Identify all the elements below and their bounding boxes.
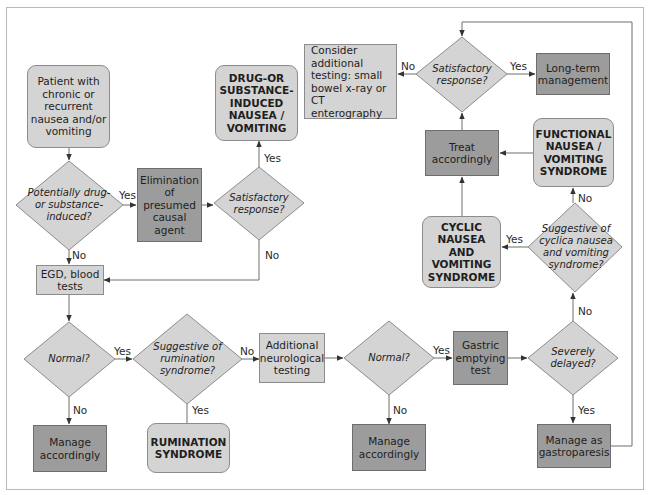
decision-normal-2-text: Normal? [368,352,410,364]
edge-label-cyclic-no: No [578,192,592,204]
decision-satisfactory-1: Satisfactory response? [224,190,294,218]
functional-diagnosis: FUNCTIONAL NAUSEA / VOMITING SYNDROME [533,118,614,187]
neuro-testing-node: Additional neurological testing [259,333,325,383]
manage-accordingly-2: Manage accordingly [352,424,426,471]
decision-severely-delayed-text: Severely delayed? [543,346,603,370]
rumination-diagnosis-text: RUMINATION SYNDROME [150,436,227,461]
egd-node-text: EGD, blood tests [39,268,101,293]
decision-cyclic: Suggestive of cyclica nausea and vomitin… [538,222,614,272]
edge-label-delayed-no: No [578,305,592,317]
edge-label-normal2-yes: Yes [433,344,450,356]
drug-induced-diagnosis: DRUG-OR SUBSTANCE-INDUCED NAUSEA / VOMIT… [215,65,298,141]
edge-label-normal1-yes: Yes [114,345,131,357]
start-node-text: Patient with chronic or recurrent nausea… [30,75,107,138]
edge-label-normal2-no: No [393,404,407,416]
manage-accordingly-2-text: Manage accordingly [355,435,423,460]
decision-drug-induced: Potentially drug-or substance-induced? [26,181,112,229]
elimination-node: Elimination of presumed causal agent [137,168,202,242]
treat-accordingly-node-text: Treat accordingly [428,141,496,166]
cyclic-diagnosis: CYCLIC NAUSEA AND VOMITING SYNDROME [422,216,501,288]
decision-normal-1-text: Normal? [48,353,90,365]
manage-accordingly-1-text: Manage accordingly [36,436,104,461]
edge-label-delayed-yes: Yes [578,404,595,416]
rumination-diagnosis: RUMINATION SYNDROME [147,423,230,473]
gastric-emptying-node-text: Gastric emptying test [456,339,506,377]
edge-label-cyclic-yes: Yes [506,233,523,245]
decision-severely-delayed: Severely delayed? [543,345,603,371]
decision-satisfactory-2-text: Satisfactory response? [427,63,497,87]
decision-satisfactory-2: Satisfactory response? [427,61,497,89]
long-term-node-text: Long-term management [538,62,608,87]
edge-label-drug-no: No [72,249,86,261]
drug-induced-diagnosis-text: DRUG-OR SUBSTANCE-INDUCED NAUSEA / VOMIT… [218,72,295,135]
manage-accordingly-1: Manage accordingly [33,425,107,472]
start-node: Patient with chronic or recurrent nausea… [27,65,110,148]
edge-label-normal1-no: No [73,404,87,416]
gastroparesis-node-text: Manage as gastroparesis [539,434,610,459]
edge-label-rumination-yes: Yes [192,404,209,416]
egd-node: EGD, blood tests [36,265,104,295]
elimination-node-text: Elimination of presumed causal agent [140,174,199,237]
treat-accordingly-node: Treat accordingly [425,130,499,176]
edge-label-rumination-no: No [240,345,254,357]
decision-rumination: Suggestive of rumination syndrome? [150,340,225,378]
decision-satisfactory-1-text: Satisfactory response? [224,192,294,216]
decision-rumination-text: Suggestive of rumination syndrome? [150,341,225,377]
functional-diagnosis-text: FUNCTIONAL NAUSEA / VOMITING SYNDROME [536,128,612,178]
neuro-testing-node-text: Additional neurological testing [260,339,324,377]
edge-label-sat2-no: No [401,60,415,72]
decision-cyclic-text: Suggestive of cyclica nausea and vomitin… [538,223,614,271]
edge-label-drug-yes: Yes [119,189,136,201]
decision-drug-induced-text: Potentially drug-or substance-induced? [26,187,112,223]
edge-label-sat2-yes: Yes [510,60,527,72]
gastroparesis-node: Manage as gastroparesis [537,424,611,468]
consider-testing-node: Consider additional testing: small bowel… [304,44,397,119]
cyclic-diagnosis-text: CYCLIC NAUSEA AND VOMITING SYNDROME [425,221,498,284]
edge-label-sat1-no: No [265,249,279,261]
edge-label-sat1-yes: Yes [264,152,281,164]
consider-testing-node-text: Consider additional testing: small bowel… [311,44,394,119]
long-term-node: Long-term management [536,53,610,95]
decision-normal-1: Normal? [34,352,104,366]
gastric-emptying-node: Gastric emptying test [453,331,508,385]
decision-normal-2: Normal? [354,351,424,365]
